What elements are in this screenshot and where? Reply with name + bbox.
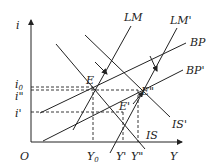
Y-dprime-label: Y" xyxy=(131,150,143,163)
bp-prime-label: BP' xyxy=(185,64,205,77)
point-e-prime-label: E' xyxy=(118,100,130,113)
point-e-label: E xyxy=(85,74,94,87)
is-prime-label: IS' xyxy=(171,118,187,131)
y-axis-label: Y xyxy=(170,150,179,163)
i-dprime-label: i" xyxy=(15,90,24,103)
curves xyxy=(40,26,186,153)
is-label: IS xyxy=(145,129,158,142)
is-lm-bp-diagram: i Y O i0 i" i' Y0 Y' Y" LM LM' BP BP' IS… xyxy=(0,0,216,168)
bp-label: BP xyxy=(189,36,206,49)
lm-prime-label: LM' xyxy=(169,14,192,27)
bp-prime-curve xyxy=(43,70,183,141)
origin-label: O xyxy=(20,150,29,163)
dashed-guides xyxy=(31,87,138,142)
Y0-label: Y0 xyxy=(87,150,99,164)
i-prime-label: i' xyxy=(15,107,22,120)
lm-curve xyxy=(73,26,131,130)
Y-prime-label: Y' xyxy=(116,150,126,163)
bp-curve xyxy=(40,43,186,113)
point-e-dprime-label: E" xyxy=(140,85,154,98)
lm-label: LM xyxy=(123,11,143,24)
bp-shift-arrow xyxy=(95,62,107,74)
i-axis-label: i xyxy=(16,19,20,32)
